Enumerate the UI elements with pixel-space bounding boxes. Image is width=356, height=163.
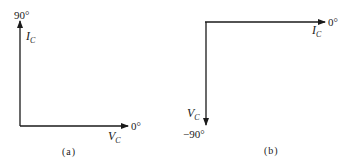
caption-b: (b) (264, 145, 279, 157)
angle-label-0-b: 0° (328, 16, 338, 28)
angle-label-0-a: 0° (131, 120, 141, 132)
panel-b: 0° IC VC −90° (b) (183, 16, 338, 157)
phasor-diagram: 90° IC 0° VC (a) 0° IC VC −90° (b) (0, 0, 356, 163)
panel-a: 90° IC 0° VC (a) (14, 9, 141, 158)
voltage-label-b: VC (187, 106, 200, 122)
caption-a: (a) (62, 146, 76, 158)
current-label-b: IC (311, 23, 322, 39)
voltage-label-a: VC (108, 129, 121, 145)
current-label-a: IC (25, 29, 36, 45)
angle-label-minus-90: −90° (183, 128, 205, 140)
angle-label-90: 90° (14, 9, 29, 21)
